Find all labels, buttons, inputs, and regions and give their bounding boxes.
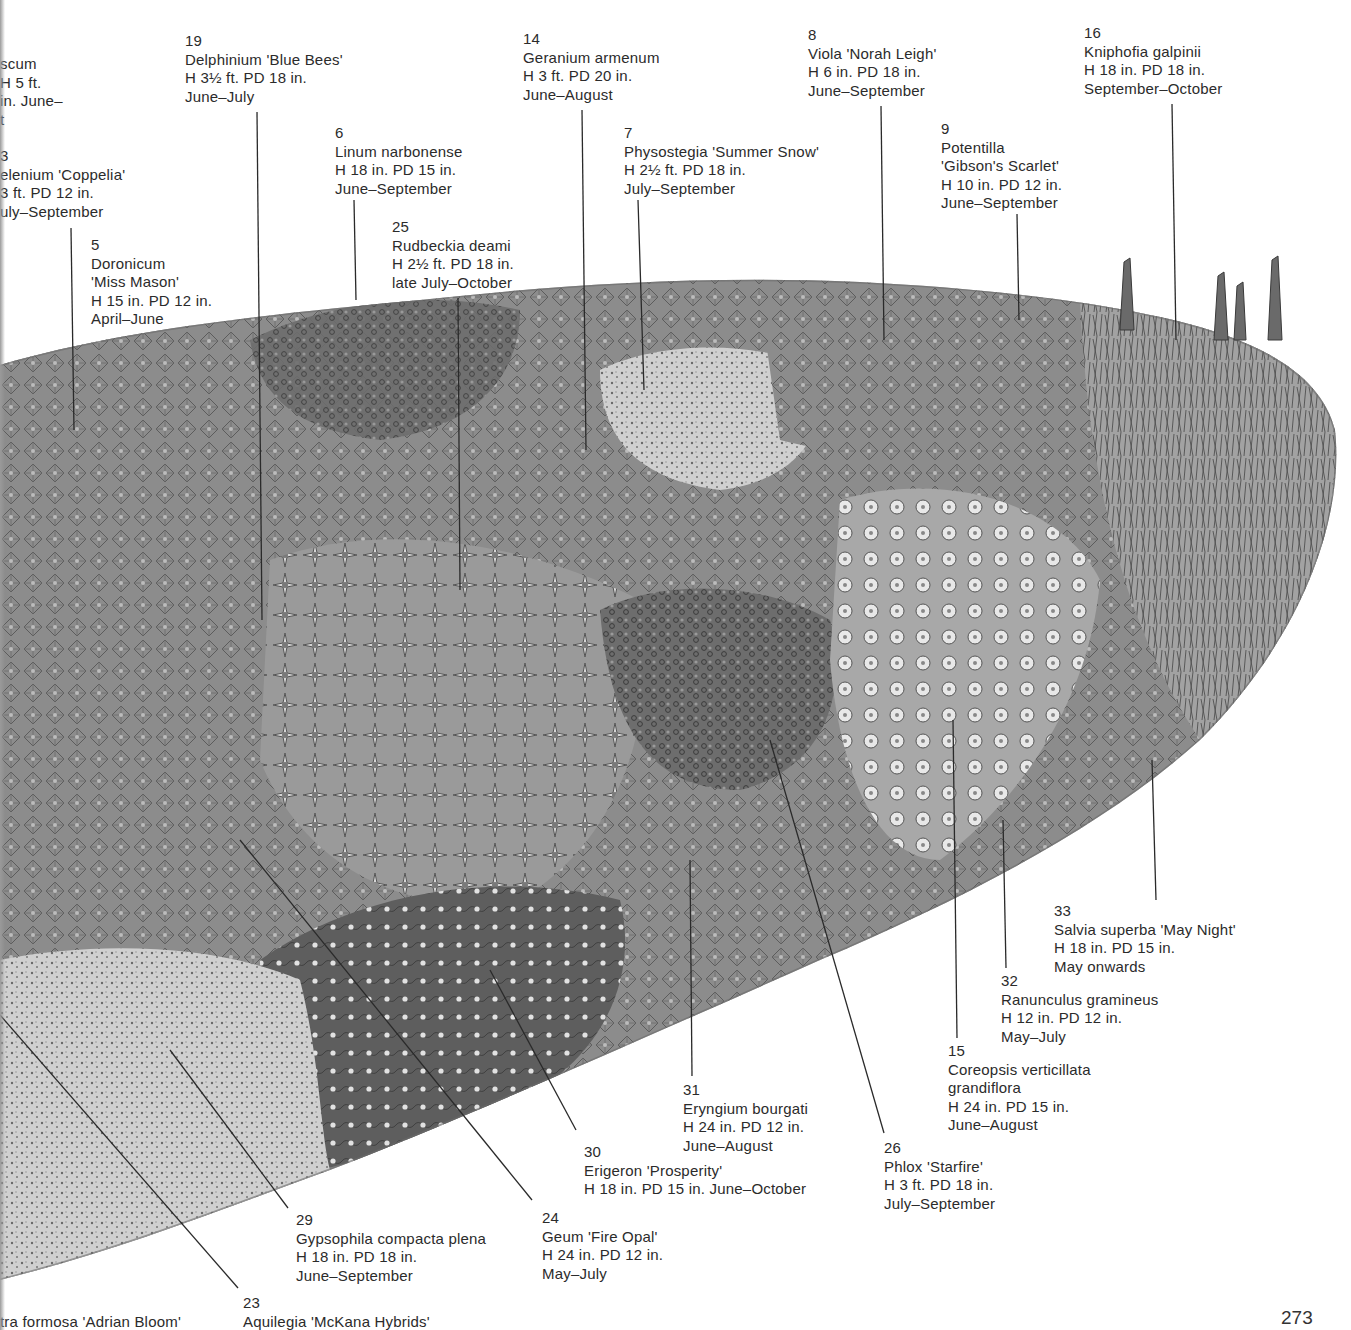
plant-name: tra formosa 'Adrian Bloom' [0,1313,181,1330]
plant-detail: H 3 ft. PD 20 in. [523,67,660,86]
plant-detail: H 18 in. PD 18 in. [1084,61,1222,80]
plant-detail: June–September [808,82,937,101]
illustration-page: scumH 5 ft.in. June–t3elenium 'Coppelia'… [0,0,1351,1330]
plant-detail: H 12 in. PD 12 in. [1001,1009,1158,1028]
plant-label-salvia: 33Salvia superba 'May Night'H 18 in. PD … [1054,902,1236,976]
plant-number: 9 [941,120,1062,139]
plant-label-viola: 8Viola 'Norah Leigh'H 6 in. PD 18 in.Jun… [808,26,937,100]
plant-number: 32 [1001,972,1158,991]
plant-label-rudbeckia: 25Rudbeckia deamiH 2½ ft. PD 18 in.late … [392,218,514,292]
plant-name: Rudbeckia deami [392,237,514,256]
plant-label-gypsophila: 29Gypsophila compacta plenaH 18 in. PD 1… [296,1211,486,1285]
plant-detail: June–July [185,88,343,107]
plant-number: 24 [542,1209,663,1228]
plant-detail: September–October [1084,80,1222,99]
plant-number: 8 [808,26,937,45]
plant-name: scum [0,55,63,74]
plant-label-potentilla: 9Potentilla'Gibson's Scarlet'H 10 in. PD… [941,120,1062,213]
plant-detail: H 5 ft. [0,74,63,93]
plant-name: Doronicum [91,255,212,274]
plant-number: 30 [584,1143,806,1162]
plant-detail: late July–October [392,274,514,293]
plant-label-aquilegia: 23Aquilegia 'McKana Hybrids' [243,1294,430,1330]
plant-number: 23 [243,1294,430,1313]
plant-number: 19 [185,32,343,51]
plant-detail: H 18 in. PD 18 in. [296,1248,486,1267]
plant-name: Delphinium 'Blue Bees' [185,51,343,70]
plant-detail: H 2½ ft. PD 18 in. [624,161,819,180]
plant-label-delphinium: 19Delphinium 'Blue Bees'H 3½ ft. PD 18 i… [185,32,343,106]
plant-name: elenium 'Coppelia' [0,166,125,185]
plant-detail: July–September [624,180,819,199]
plant-name: Gypsophila compacta plena [296,1230,486,1249]
plant-detail: May–July [542,1265,663,1284]
plant-label-kniphofia: 16Kniphofia galpiniiH 18 in. PD 18 in.Se… [1084,24,1222,98]
plant-label-geranium: 14Geranium armenumH 3 ft. PD 20 in.June–… [523,30,660,104]
plant-detail: H 3 ft. PD 18 in. [884,1176,995,1195]
plant-name: Kniphofia galpinii [1084,43,1222,62]
plant-number: 15 [948,1042,1091,1061]
plant-label-verbascum: scumH 5 ft.in. June–t [0,55,63,129]
plant-detail: H 24 in. PD 12 in. [683,1118,808,1137]
plant-detail: H 18 in. PD 15 in. June–October [584,1180,806,1199]
plant-name: Eryngium bourgati [683,1100,808,1119]
plant-detail: 'Miss Mason' [91,273,212,292]
plant-detail: H 2½ ft. PD 18 in. [392,255,514,274]
plant-detail: April–June [91,310,212,329]
plant-name: Geranium armenum [523,49,660,68]
plant-detail: June–August [523,86,660,105]
plant-detail: June–September [296,1267,486,1286]
plant-label-erigeron: 30Erigeron 'Prosperity'H 18 in. PD 15 in… [584,1143,806,1199]
plant-name: Salvia superba 'May Night' [1054,921,1236,940]
plant-number: 6 [335,124,462,143]
plant-detail: H 10 in. PD 12 in. [941,176,1062,195]
plant-label-physostegia: 7Physostegia 'Summer Snow'H 2½ ft. PD 18… [624,124,819,198]
plant-number: 29 [296,1211,486,1230]
plant-name: Aquilegia 'McKana Hybrids' [243,1313,430,1330]
plant-number: 7 [624,124,819,143]
plant-number: 5 [91,236,212,255]
plant-detail: H 18 in. PD 15 in. [335,161,462,180]
plant-detail: in. June– [0,92,63,111]
plant-detail: 3 ft. PD 12 in. [0,184,125,203]
plant-detail: June–September [335,180,462,199]
plant-number: 31 [683,1081,808,1100]
plant-name: Viola 'Norah Leigh' [808,45,937,64]
plant-name: Erigeron 'Prosperity' [584,1162,806,1181]
plant-name: Potentilla [941,139,1062,158]
plant-number: 3 [0,147,125,166]
page-number: 273 [1281,1307,1313,1329]
plant-detail: uly–September [0,203,125,222]
plant-label-doronicum: 5Doronicum'Miss Mason'H 15 in. PD 12 in.… [91,236,212,329]
plant-detail: H 18 in. PD 15 in. [1054,939,1236,958]
leader-line-kniphofia [1172,104,1176,340]
plant-label-phlox: 26Phlox 'Starfire'H 3 ft. PD 18 in.July–… [884,1139,995,1213]
plant-detail: H 24 in. PD 12 in. [542,1246,663,1265]
plant-number: 33 [1054,902,1236,921]
plant-detail: grandiflora [948,1079,1091,1098]
plant-detail: June–September [941,194,1062,213]
plant-detail: June–August [948,1116,1091,1135]
plant-detail: 'Gibson's Scarlet' [941,157,1062,176]
plant-number: 26 [884,1139,995,1158]
plant-label-heuchera: tra formosa 'Adrian Bloom' [0,1313,181,1330]
plant-name: Linum narbonense [335,143,462,162]
plant-detail: H 15 in. PD 12 in. [91,292,212,311]
plant-label-linum: 6Linum narbonenseH 18 in. PD 15 in.June–… [335,124,462,198]
plant-detail: H 3½ ft. PD 18 in. [185,69,343,88]
plant-name: Coreopsis verticillata [948,1061,1091,1080]
plant-name: Physostegia 'Summer Snow' [624,143,819,162]
plant-label-coreopsis: 15Coreopsis verticillatagrandifloraH 24 … [948,1042,1091,1135]
planting-bed-illustration [0,0,1351,1330]
plant-detail: t [0,111,63,130]
plant-detail: July–September [884,1195,995,1214]
page-gutter-shadow [0,0,5,1330]
plant-number: 16 [1084,24,1222,43]
plant-label-helenium: 3elenium 'Coppelia'3 ft. PD 12 in.uly–Se… [0,147,125,221]
plant-name: Ranunculus gramineus [1001,991,1158,1010]
plant-label-ranunculus: 32Ranunculus gramineusH 12 in. PD 12 in.… [1001,972,1158,1046]
leader-line-salvia [1152,760,1156,900]
plant-detail: H 24 in. PD 15 in. [948,1098,1091,1117]
leader-line-linum [354,200,356,300]
plant-detail: H 6 in. PD 18 in. [808,63,937,82]
